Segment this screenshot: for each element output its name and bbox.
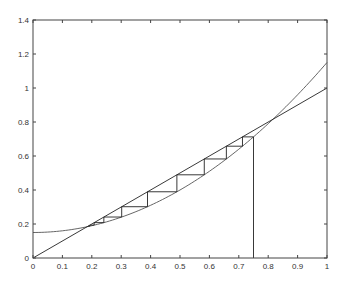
parabola-curve	[33, 63, 327, 233]
axes-frame	[33, 20, 327, 258]
x-tick-label: 0	[31, 262, 36, 271]
x-tick-label: 0.3	[116, 262, 128, 271]
y-tick-label: 0.4	[18, 186, 30, 195]
y-tick-label: 1.2	[18, 50, 30, 59]
x-tick-label: 0.9	[292, 262, 304, 271]
identity-line	[33, 88, 327, 258]
x-tick-label: 1	[325, 262, 330, 271]
y-tick-label: 1.4	[18, 16, 30, 25]
axes: 00.10.20.30.40.50.60.70.80.9100.20.40.60…	[18, 16, 330, 271]
y-tick-label: 0	[25, 254, 30, 263]
y-tick-label: 0.8	[18, 118, 30, 127]
x-tick-label: 0.1	[57, 262, 69, 271]
y-tick-label: 1	[25, 84, 30, 93]
x-tick-label: 0.2	[86, 262, 98, 271]
series-layer	[33, 63, 327, 259]
x-tick-label: 0.4	[145, 262, 157, 271]
x-tick-label: 0.7	[233, 262, 245, 271]
x-tick-label: 0.6	[204, 262, 216, 271]
cobweb-plot: 00.10.20.30.40.50.60.70.80.9100.20.40.60…	[0, 0, 344, 286]
x-tick-label: 0.5	[174, 262, 186, 271]
cobweb-path	[88, 137, 253, 258]
x-tick-label: 0.8	[263, 262, 275, 271]
y-tick-label: 0.2	[18, 220, 30, 229]
y-tick-label: 0.6	[18, 152, 30, 161]
